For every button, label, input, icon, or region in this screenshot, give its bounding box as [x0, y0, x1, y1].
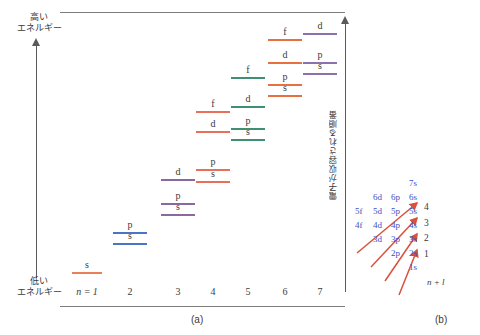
- energy-level-label: d: [231, 93, 265, 104]
- arrow-index-1: 1: [424, 249, 429, 259]
- energy-level-bar: [161, 179, 195, 181]
- top-rule: [60, 12, 345, 13]
- bottom-rule: [60, 306, 345, 307]
- energy-level-bar: [196, 181, 230, 183]
- energy-level-label: d: [196, 118, 230, 129]
- arrow-index-3: 3: [424, 218, 429, 228]
- fill-order-axis-line: [345, 22, 346, 292]
- n-axis-tick-4: 4: [196, 286, 230, 297]
- n-plus-l-label: n + l: [427, 277, 445, 287]
- energy-level-label: d: [268, 49, 302, 60]
- energy-axis-line: [36, 44, 37, 278]
- energy-level-bar: [72, 272, 102, 274]
- orbital-label-5d: 5d: [373, 206, 382, 216]
- n-axis-tick-3: 3: [161, 286, 195, 297]
- energy-level-label: s: [72, 259, 102, 270]
- figure-root: 高い エネルギー 低い エネルギー 電子が収容される順番 sspspdspdfs…: [0, 0, 480, 335]
- energy-high-line1: 高い: [0, 12, 78, 23]
- caption-b: (b): [435, 314, 447, 325]
- energy-level-bar: [113, 232, 147, 234]
- energy-level-bar: [303, 62, 337, 64]
- energy-level-label: p: [231, 115, 265, 126]
- energy-level-label: p: [303, 49, 337, 60]
- orbital-label-2s: 2s: [409, 248, 417, 258]
- energy-level-bar: [161, 214, 195, 216]
- orbital-label-4d: 4d: [373, 220, 382, 230]
- orbital-label-1s: 1s: [409, 262, 417, 272]
- energy-level-label: d: [161, 166, 195, 177]
- energy-level-label: f: [196, 98, 230, 109]
- energy-level-bar: [196, 111, 230, 113]
- orbital-label-4f: 4f: [355, 220, 363, 230]
- orbital-label-4p: 4p: [391, 220, 400, 230]
- energy-level-bar: [268, 39, 302, 41]
- orbital-label-3p: 3p: [391, 234, 400, 244]
- energy-level-label: d: [303, 20, 337, 31]
- orbital-label-2p: 2p: [391, 248, 400, 258]
- orbital-label-5s: 5s: [409, 206, 417, 216]
- n-axis-tick-1: n = 1: [62, 286, 112, 297]
- orbital-label-6p: 6p: [391, 192, 400, 202]
- orbital-label-3s: 3s: [409, 234, 417, 244]
- n-axis-tick-6: 6: [268, 286, 302, 297]
- energy-high-line2: エネルギー: [0, 23, 78, 34]
- energy-axis-high-label: 高い エネルギー: [0, 12, 78, 35]
- energy-level-bar: [161, 203, 195, 205]
- energy-level-bar: [268, 84, 302, 86]
- orbital-label-5f: 5f: [355, 206, 363, 216]
- energy-level-label: p: [268, 71, 302, 82]
- energy-level-bar: [303, 33, 337, 35]
- arrow-index-4: 4: [424, 202, 429, 212]
- orbital-label-7s: 7s: [409, 178, 417, 188]
- energy-level-bar: [303, 73, 337, 75]
- orbital-label-4s: 4s: [409, 220, 417, 230]
- energy-level-label: f: [268, 26, 302, 37]
- fill-order-axis-label: 電子が収容される順番: [330, 110, 344, 200]
- fill-order-axis-arrow-icon: [341, 16, 349, 24]
- panel-b-diagonal-rule: 7s6d6p6s5f5d5p5s4f4d4p4s3d3p3s2p2s1s 432…: [355, 178, 480, 303]
- energy-level-bar: [231, 77, 265, 79]
- orbital-label-6s: 6s: [409, 192, 417, 202]
- n-axis-tick-5: 5: [231, 286, 265, 297]
- energy-level-label: p: [161, 190, 195, 201]
- energy-axis-arrow-icon: [32, 38, 40, 46]
- energy-level-label: p: [196, 156, 230, 167]
- energy-level-bar: [196, 131, 230, 133]
- orbital-label-5p: 5p: [391, 206, 400, 216]
- energy-level-bar: [268, 95, 302, 97]
- energy-level-bar: [113, 243, 147, 245]
- energy-level-label: f: [231, 64, 265, 75]
- orbital-label-3d: 3d: [373, 234, 382, 244]
- arrow-index-2: 2: [424, 233, 429, 243]
- caption-a: (a): [191, 314, 203, 325]
- n-axis-tick-7: 7: [303, 286, 337, 297]
- energy-level-bar: [231, 128, 265, 130]
- energy-level-bar: [231, 106, 265, 108]
- energy-level-label: p: [113, 219, 147, 230]
- orbital-label-6d: 6d: [373, 192, 382, 202]
- energy-level-bar: [231, 139, 265, 141]
- energy-level-bar: [196, 169, 230, 171]
- energy-level-bar: [268, 62, 302, 64]
- n-axis-tick-2: 2: [113, 286, 147, 297]
